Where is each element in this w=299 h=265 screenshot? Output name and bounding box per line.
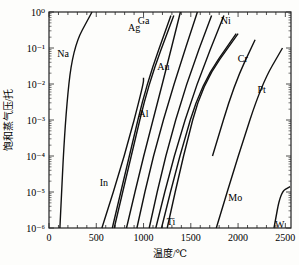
x-tick-label: 500 bbox=[89, 232, 104, 243]
curve-na bbox=[60, 12, 92, 228]
x-tick-label: 2500 bbox=[275, 232, 295, 243]
x-axis-title: 温度/℃ bbox=[153, 247, 187, 259]
y-tick-label: 10⁻³ bbox=[27, 115, 45, 126]
y-tick-label: 10⁻⁵ bbox=[26, 187, 45, 198]
series-label-ni: Ni bbox=[221, 15, 231, 26]
series-label-ti: Ti bbox=[167, 216, 176, 227]
series-label-in: In bbox=[100, 177, 108, 188]
series-label-cr: Cr bbox=[238, 53, 249, 64]
y-tick-label: 10⁻¹ bbox=[27, 43, 45, 54]
curve-au bbox=[149, 16, 211, 229]
series-label-ga: Ga bbox=[138, 15, 150, 26]
series-label-pt: Pt bbox=[258, 84, 267, 95]
series-label-mo: Mo bbox=[228, 192, 242, 203]
curve-in bbox=[102, 78, 144, 228]
curve-ga bbox=[137, 12, 198, 228]
y-axis-title: 饱和蒸气压/托 bbox=[2, 89, 14, 152]
series-label-au: Au bbox=[157, 61, 169, 72]
series-label-al: Al bbox=[139, 108, 149, 119]
x-tick-label: 1000 bbox=[134, 232, 154, 243]
series-label-w: W bbox=[275, 219, 285, 230]
x-tick-label: 1500 bbox=[181, 232, 201, 243]
y-tick-label: 10⁰ bbox=[31, 7, 45, 18]
vapor-pressure-chart: 0500100015002000250010⁻⁶10⁻⁵10⁻⁴10⁻³10⁻²… bbox=[0, 0, 299, 265]
x-tick-label: 0 bbox=[47, 232, 52, 243]
y-tick-label: 10⁻² bbox=[27, 79, 45, 90]
curve-pt bbox=[213, 40, 256, 156]
curve-mo bbox=[216, 48, 282, 228]
series-label-na: Na bbox=[57, 48, 69, 59]
y-tick-label: 10⁻⁴ bbox=[26, 151, 45, 162]
series-curves bbox=[60, 12, 290, 228]
x-tick-label: 2000 bbox=[228, 232, 248, 243]
y-tick-label: 10⁻⁶ bbox=[26, 223, 45, 234]
